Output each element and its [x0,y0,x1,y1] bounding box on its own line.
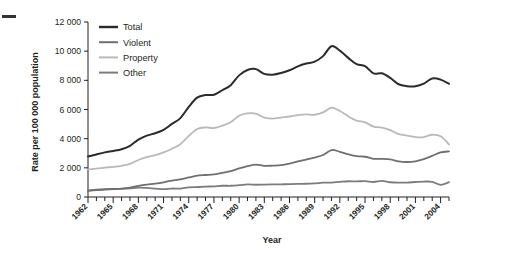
x-tick-label: 1992 [322,202,342,222]
y-tick-label: 0 [76,192,81,202]
x-tick-label: 1983 [246,202,266,222]
x-tick-label: 2004 [423,202,443,222]
y-tick-label: 6 000 [59,105,81,115]
legend-label-other: Other [123,68,146,78]
x-tick-label: 1986 [272,202,292,222]
x-tick-label: 1995 [347,202,367,222]
legend-label-total: Total [123,22,142,32]
x-tick-label: 1974 [171,202,191,222]
line-chart: 02 0004 0006 0008 00010 00012 000 196219… [0,0,512,259]
y-tick-label: 4 000 [59,134,81,144]
x-tick-label: 1980 [221,202,241,222]
x-tick-label: 1989 [297,202,317,222]
x-tick-labels: 1962196519681971197419771980198319861989… [70,202,442,222]
legend-label-violent: Violent [123,38,151,48]
legend-label-property: Property [123,53,158,63]
x-tick-label: 1962 [70,202,90,222]
figure-container: 02 0004 0006 0008 00010 00012 000 196219… [0,0,512,259]
y-tick-label: 10 000 [55,46,82,56]
x-axis-title: Year [262,235,282,245]
y-axis-title: Rate per 100 000 population [30,52,40,172]
dash-mark-icon [2,15,16,18]
x-tick-label: 1965 [95,202,115,222]
x-tick-label: 2001 [398,202,418,222]
y-tick-labels: 02 0004 0006 0008 00010 00012 000 [55,17,82,202]
chart-legend: TotalViolentPropertyOther [99,22,158,78]
y-tick-label: 8 000 [59,75,81,85]
x-tick-label: 1977 [196,202,216,222]
x-tick-label: 1971 [146,202,166,222]
y-tick-label: 12 000 [55,17,82,27]
axes [84,22,449,203]
x-tick-label: 1998 [372,202,392,222]
x-tick-label: 1968 [121,202,141,222]
y-tick-label: 2 000 [59,163,81,173]
